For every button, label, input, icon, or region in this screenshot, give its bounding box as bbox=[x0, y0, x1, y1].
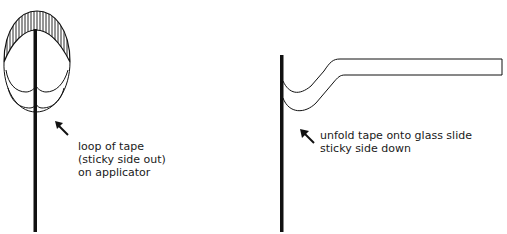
tape-strip bbox=[283, 59, 502, 111]
tape-loop-on-applicator bbox=[4, 11, 70, 232]
diagram-canvas bbox=[0, 0, 507, 234]
applicator-rod bbox=[34, 29, 38, 232]
tape-loop-inner-right bbox=[36, 70, 68, 92]
arrow-icon bbox=[300, 129, 314, 143]
left-caption-line-1: loop of tape bbox=[78, 140, 166, 153]
right-caption-line-2: sticky side down bbox=[320, 142, 472, 155]
right-caption-line-1: unfold tape onto glass slide bbox=[320, 129, 472, 142]
arrow-icon bbox=[55, 121, 68, 135]
tape-loop-bottom-right bbox=[36, 88, 64, 108]
tape-loop-bottom-left bbox=[8, 88, 36, 108]
right-caption: unfold tape onto glass slide sticky side… bbox=[320, 129, 472, 155]
left-caption-line-3: on applicator bbox=[78, 166, 166, 179]
left-caption: loop of tape (sticky side out) on applic… bbox=[78, 140, 166, 179]
left-caption-line-2: (sticky side out) bbox=[78, 153, 166, 166]
tape-loop-inner-left bbox=[6, 70, 36, 92]
